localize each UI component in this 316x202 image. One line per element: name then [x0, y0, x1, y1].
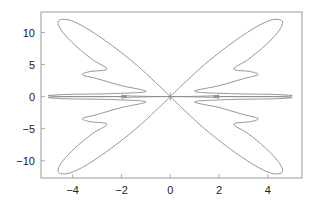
x-tick-label: −4 — [66, 184, 79, 196]
y-tick-label: −5 — [22, 123, 35, 135]
y-tick-label: 5 — [29, 59, 35, 71]
y-tick-label: 0 — [29, 91, 35, 103]
chart: −4−2024 1050−5−10 — [0, 0, 316, 202]
x-axis: −4−2024 — [66, 174, 270, 196]
series-curve — [48, 19, 292, 174]
y-tick-label: 10 — [23, 27, 35, 39]
x-tick-label: −2 — [115, 184, 128, 196]
y-tick-label: −10 — [16, 155, 35, 167]
x-tick-label: 2 — [216, 184, 222, 196]
x-tick-label: 4 — [265, 184, 271, 196]
x-tick-label: 0 — [167, 184, 173, 196]
